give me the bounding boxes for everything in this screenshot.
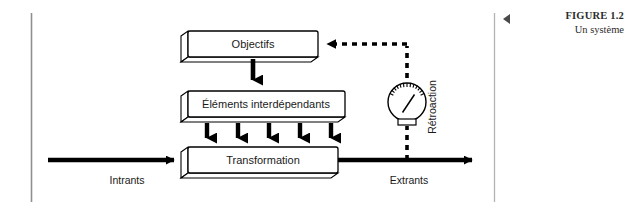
- figure-caption: FIGURE 1.2 Un système: [520, 9, 624, 36]
- box-elements-label: Éléments interdépendants: [202, 98, 330, 110]
- gauge-meter-icon: [388, 83, 426, 125]
- gauge-base: [398, 119, 416, 125]
- label-retroaction: Rétroaction: [426, 80, 438, 134]
- box-transformation: Transformation: [181, 147, 338, 178]
- box-transformation-bottom: [181, 173, 338, 178]
- left-triangle-icon: [503, 14, 510, 24]
- figure-page: Objectifs Éléments interdépendants: [0, 0, 635, 213]
- box-objectifs: Objectifs: [181, 31, 318, 62]
- box-elements: Éléments interdépendants: [181, 91, 345, 122]
- box-elements-bottom: [181, 117, 345, 122]
- label-extrants: Extrants: [390, 174, 429, 186]
- figure-caption-subtitle: Un système: [520, 23, 624, 37]
- box-transformation-label: Transformation: [226, 154, 300, 166]
- figure-caption-title: FIGURE 1.2: [520, 9, 624, 23]
- box-objectifs-bottom: [181, 57, 318, 62]
- box-objectifs-label: Objectifs: [232, 38, 275, 50]
- label-intrants: Intrants: [109, 174, 144, 186]
- gauge-dial: [388, 83, 426, 121]
- arrow-group-elements-to-transformation: [207, 123, 331, 138]
